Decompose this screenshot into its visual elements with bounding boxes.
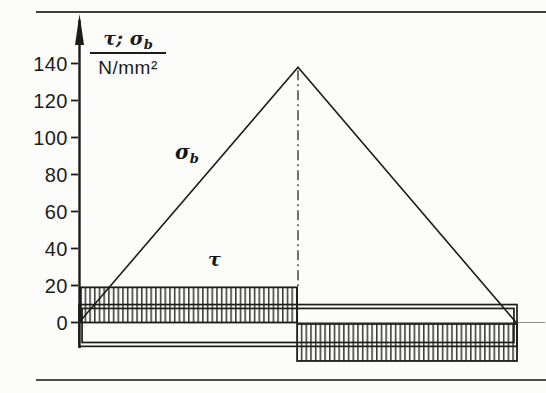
y-axis-unit-label: τ; σb N/mm² xyxy=(90,27,166,79)
y-tick-label: 40 xyxy=(0,239,68,259)
y-tick-label: 120 xyxy=(0,91,68,111)
y-tick-label: 140 xyxy=(0,54,68,74)
y-tick-label: 0 xyxy=(0,313,68,333)
y-axis-arrowhead xyxy=(75,14,84,45)
axis-title-numerator: τ; σb xyxy=(90,27,166,54)
y-tick-label: 100 xyxy=(0,128,68,148)
y-tick-label: 80 xyxy=(0,165,68,185)
sigma-b-curve-label: σb xyxy=(175,140,199,164)
y-tick-label: 20 xyxy=(0,276,68,296)
axis-title-denominator: N/mm² xyxy=(90,54,166,79)
y-tick-label: 60 xyxy=(0,202,68,222)
tau-curve-label: τ xyxy=(208,248,221,270)
stress-chart-canvas xyxy=(0,0,546,393)
figure-stress-diagram: 140120100806040200 τ; σb N/mm² σb τ xyxy=(0,0,546,393)
